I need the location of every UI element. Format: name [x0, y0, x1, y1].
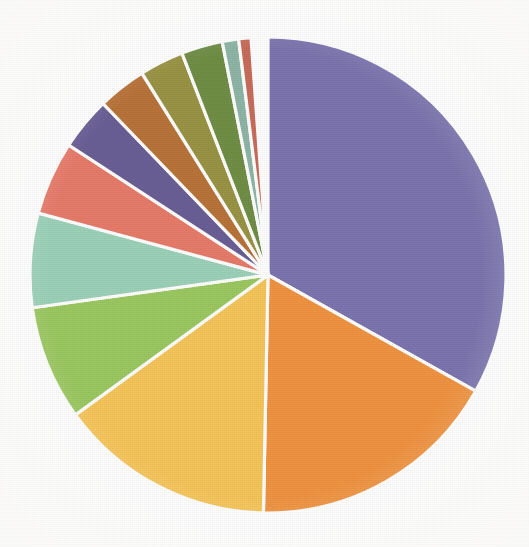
pie-chart-figure: Pie chart with twelve unlabeled slices: [0, 0, 529, 547]
pie-slices-group: [30, 37, 506, 513]
pie-chart-svg: [0, 0, 529, 547]
